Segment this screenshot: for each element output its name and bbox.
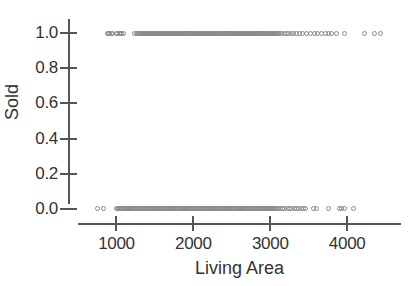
data-point bbox=[226, 206, 231, 211]
data-point bbox=[229, 31, 234, 36]
data-point bbox=[121, 206, 126, 211]
data-point bbox=[145, 206, 150, 211]
data-point bbox=[280, 206, 285, 211]
data-point bbox=[234, 206, 239, 211]
data-point bbox=[372, 31, 377, 36]
data-point bbox=[261, 31, 266, 36]
data-point bbox=[172, 31, 177, 36]
data-point bbox=[144, 31, 149, 36]
data-point bbox=[179, 206, 184, 211]
data-point bbox=[212, 31, 217, 36]
data-point bbox=[254, 31, 259, 36]
data-point bbox=[255, 31, 260, 36]
data-point bbox=[294, 31, 299, 36]
data-point bbox=[241, 31, 246, 36]
data-point bbox=[130, 206, 135, 211]
data-point bbox=[183, 31, 188, 36]
data-point bbox=[342, 31, 347, 36]
data-point bbox=[185, 31, 190, 36]
data-point bbox=[219, 31, 224, 36]
data-point bbox=[146, 206, 151, 211]
data-point bbox=[326, 31, 331, 36]
data-point bbox=[172, 206, 177, 211]
data-point bbox=[214, 206, 219, 211]
data-point bbox=[208, 31, 213, 36]
data-point bbox=[202, 31, 207, 36]
data-point bbox=[202, 206, 207, 211]
data-point bbox=[133, 206, 138, 211]
y-tick-label: 1.0 bbox=[12, 24, 58, 41]
data-point bbox=[142, 31, 147, 36]
data-point bbox=[228, 206, 233, 211]
data-point bbox=[184, 206, 189, 211]
data-point bbox=[276, 206, 281, 211]
data-point bbox=[183, 206, 188, 211]
data-point bbox=[223, 31, 228, 36]
data-point bbox=[244, 206, 249, 211]
data-point bbox=[194, 31, 199, 36]
data-point bbox=[223, 31, 228, 36]
data-point bbox=[274, 31, 279, 36]
data-point bbox=[207, 31, 212, 36]
data-point bbox=[115, 206, 120, 211]
data-point bbox=[282, 206, 287, 211]
data-point bbox=[230, 31, 235, 36]
data-point bbox=[229, 206, 234, 211]
data-point bbox=[205, 206, 210, 211]
data-point bbox=[183, 31, 188, 36]
data-point bbox=[208, 206, 213, 211]
data-point bbox=[247, 206, 252, 211]
data-point bbox=[262, 31, 267, 36]
data-point bbox=[266, 31, 271, 36]
data-point bbox=[182, 31, 187, 36]
data-point bbox=[196, 206, 201, 211]
data-point bbox=[279, 31, 284, 36]
data-point bbox=[175, 206, 180, 211]
data-point bbox=[141, 206, 146, 211]
data-point bbox=[315, 31, 320, 36]
data-point bbox=[185, 31, 190, 36]
data-point bbox=[148, 31, 153, 36]
data-point bbox=[173, 206, 178, 211]
data-point bbox=[139, 31, 144, 36]
data-point bbox=[180, 31, 185, 36]
data-point bbox=[216, 31, 221, 36]
data-point bbox=[210, 31, 215, 36]
data-point bbox=[251, 206, 256, 211]
data-point bbox=[254, 206, 259, 211]
data-point bbox=[155, 31, 160, 36]
data-point bbox=[243, 31, 248, 36]
data-point bbox=[221, 31, 226, 36]
data-point bbox=[287, 206, 292, 211]
data-point bbox=[151, 31, 156, 36]
data-point bbox=[166, 31, 171, 36]
data-point bbox=[192, 206, 197, 211]
y-tick-label-wrap: 0.2 bbox=[6, 165, 58, 182]
data-point bbox=[116, 206, 121, 211]
data-point bbox=[237, 31, 242, 36]
data-point bbox=[197, 31, 202, 36]
data-point bbox=[277, 31, 282, 36]
data-point bbox=[235, 206, 240, 211]
x-tick bbox=[346, 216, 348, 231]
data-point bbox=[270, 206, 275, 211]
data-point bbox=[308, 31, 313, 36]
data-point bbox=[163, 206, 168, 211]
data-point bbox=[241, 206, 246, 211]
data-point bbox=[144, 206, 149, 211]
data-point bbox=[205, 31, 210, 36]
data-point bbox=[140, 206, 145, 211]
data-point bbox=[151, 206, 156, 211]
data-point bbox=[239, 206, 244, 211]
data-point bbox=[154, 31, 159, 36]
data-point bbox=[150, 206, 155, 211]
data-point bbox=[140, 31, 145, 36]
data-point bbox=[163, 31, 168, 36]
data-point bbox=[223, 206, 228, 211]
data-point bbox=[199, 31, 204, 36]
data-point bbox=[200, 31, 205, 36]
y-tick bbox=[60, 67, 77, 69]
scatter-plot-figure: Sold 0.00.20.40.60.81.0 Living Area 1000… bbox=[0, 0, 411, 286]
data-point bbox=[101, 206, 106, 211]
data-point bbox=[141, 31, 146, 36]
